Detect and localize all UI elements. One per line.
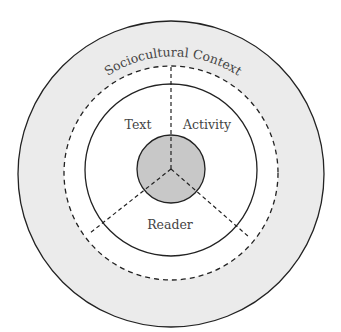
sociocultural-context-diagram: Sociocultural Context Text Activity Read… xyxy=(0,0,341,332)
segment-label-reader: Reader xyxy=(147,217,193,232)
segment-label-text: Text xyxy=(125,117,152,132)
segment-label-activity: Activity xyxy=(182,117,232,132)
